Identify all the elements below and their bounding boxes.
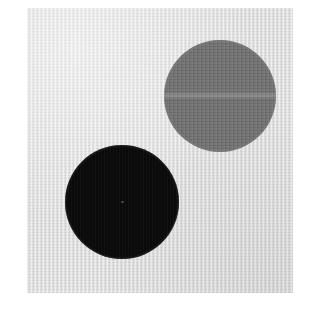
gray-circle xyxy=(164,40,276,152)
black-circle xyxy=(65,145,179,259)
gray-circle-edge xyxy=(164,40,276,152)
figure-root xyxy=(0,0,325,313)
background-panel xyxy=(27,8,293,293)
black-circle-edge xyxy=(65,145,179,259)
